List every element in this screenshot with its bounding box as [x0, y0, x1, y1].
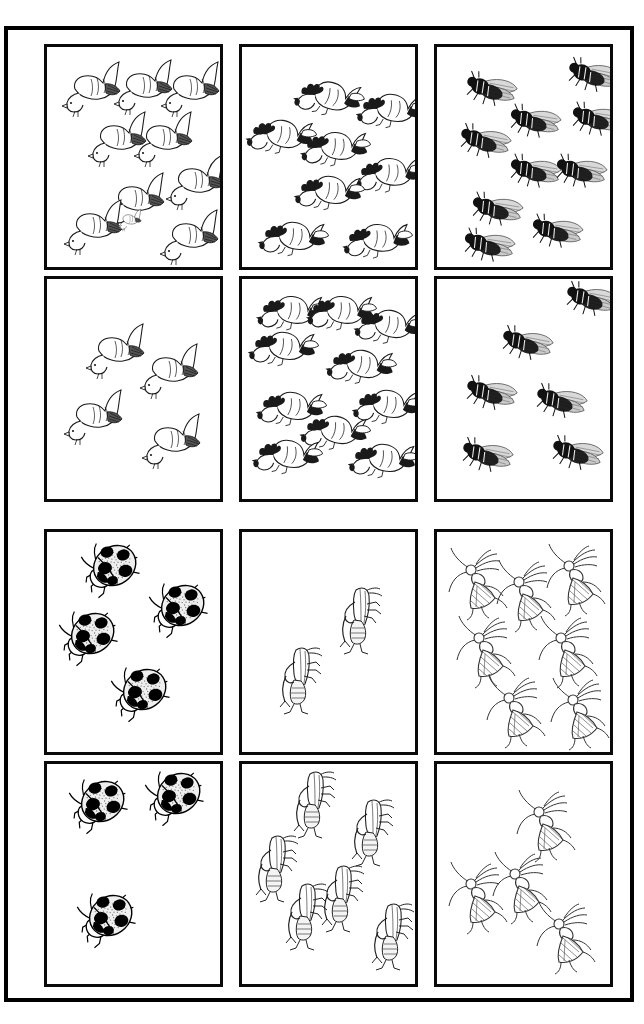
cell-r2c1-bottom[interactable] — [44, 761, 223, 987]
rooster-icon — [342, 205, 417, 270]
cell-r1c3-bottom[interactable] — [434, 276, 613, 502]
mosquito-icon — [539, 904, 597, 978]
ladybug-icon — [73, 881, 146, 953]
dove-icon — [165, 152, 223, 212]
ladybug-icon — [145, 571, 218, 643]
ladybug-icon — [141, 761, 214, 831]
dove-icon — [85, 321, 147, 381]
outer-frame — [4, 26, 634, 1002]
ladybug-icon — [107, 655, 180, 727]
housefly-icon — [454, 431, 519, 484]
cell-r2c1-top[interactable] — [44, 529, 223, 755]
grasshopper-icon — [370, 900, 418, 974]
cell-r2c2-top[interactable] — [239, 529, 418, 755]
worksheet-page — [0, 0, 644, 1024]
dove-icon — [139, 341, 201, 401]
ladybug-icon — [65, 767, 138, 839]
grasshopper-icon — [278, 644, 326, 718]
cell-r1c2-bottom[interactable] — [239, 276, 418, 502]
housefly-icon — [558, 276, 613, 329]
housefly-icon — [525, 208, 589, 260]
mosquito-icon — [489, 678, 547, 752]
grasshopper-icon — [292, 768, 340, 842]
cell-r2c2-bottom[interactable] — [239, 761, 418, 987]
mosquito-icon — [553, 680, 611, 754]
cell-r1c1-top[interactable] — [44, 44, 223, 270]
dove-icon — [63, 197, 125, 257]
housefly-icon — [528, 377, 593, 430]
rooster-icon — [347, 423, 418, 492]
grasshopper-icon — [350, 796, 398, 870]
dove-icon — [141, 411, 203, 471]
housefly-icon — [494, 319, 559, 372]
housefly-icon — [544, 429, 609, 482]
dove-icon — [159, 207, 221, 267]
ladybug-icon — [77, 531, 150, 603]
cell-r2c3-bottom[interactable] — [434, 761, 613, 987]
cell-r2c3-top[interactable] — [434, 529, 613, 755]
housefly-icon — [565, 96, 613, 148]
cell-r1c1-bottom[interactable] — [44, 276, 223, 502]
housefly-icon — [458, 369, 523, 422]
dove-icon — [63, 387, 125, 447]
dove-icon — [118, 208, 143, 232]
cell-r1c3-top[interactable] — [434, 44, 613, 270]
mosquito-icon — [549, 546, 607, 620]
housefly-icon — [560, 51, 613, 104]
panel-grid — [8, 30, 630, 998]
grasshopper-icon — [338, 584, 386, 658]
cell-r1c2-top[interactable] — [239, 44, 418, 270]
grasshopper-icon — [284, 880, 332, 954]
ladybug-icon — [55, 599, 128, 671]
